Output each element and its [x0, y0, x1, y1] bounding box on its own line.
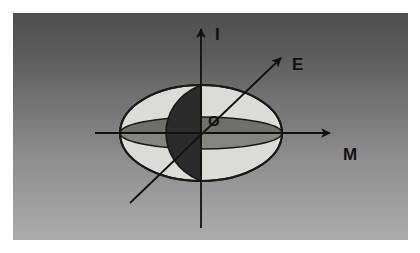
origin-label-O: O: [208, 112, 220, 129]
axis-label-E: E: [292, 55, 303, 74]
figure-root: I M E O: [0, 0, 420, 253]
axis-label-M: M: [343, 145, 357, 164]
ellipsoid-diagram: I M E O: [0, 0, 420, 253]
axis-label-I: I: [215, 25, 220, 44]
